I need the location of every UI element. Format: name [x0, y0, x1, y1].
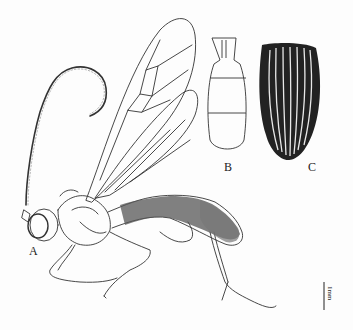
wasp-illustration: [0, 0, 353, 330]
panel-label-b: B: [224, 160, 232, 175]
panel-c-drawing: [259, 43, 320, 160]
panel-label-a: A: [29, 244, 38, 259]
legs: [50, 222, 276, 308]
head: [22, 209, 58, 241]
figure-canvas: A B C 1mm: [0, 0, 353, 330]
abdomen-shading: [120, 196, 240, 242]
antenna: [26, 67, 106, 205]
thorax: [58, 190, 110, 245]
hindwing: [95, 90, 198, 198]
panel-label-c: C: [308, 160, 316, 175]
scale-bar-label: 1mm: [326, 286, 334, 300]
panel-b-drawing: [208, 38, 246, 149]
